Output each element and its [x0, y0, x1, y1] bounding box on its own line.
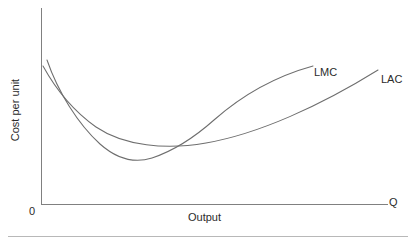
origin-label: 0	[29, 205, 35, 217]
x-axis-label: Output	[188, 211, 221, 223]
lac-curve-label: LAC	[381, 73, 402, 85]
chart-canvas	[0, 0, 416, 245]
y-axis-label-text: Cost per unit	[9, 79, 21, 141]
y-axis-label: Cost per unit	[0, 103, 63, 117]
x-axis-end-label: Q	[389, 196, 398, 208]
lmc-curve-label: LMC	[314, 66, 337, 78]
lmc-curve	[47, 60, 313, 160]
cost-curves-figure: Cost per unit Output 0 Q LMC LAC	[0, 0, 416, 245]
